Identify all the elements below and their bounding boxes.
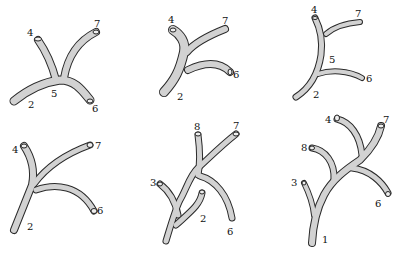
vessel-branching-diagram: 4 7 5 2 6 4 7 6 2 4 7 5 6 2 4 7 6 2 8 7 …	[0, 0, 398, 256]
panel-d	[14, 143, 97, 231]
panel-e	[158, 132, 240, 241]
label-3: 3	[291, 178, 297, 188]
label-2: 2	[177, 92, 183, 102]
label-7: 7	[94, 19, 100, 29]
label-1: 1	[322, 235, 328, 245]
label-5: 5	[329, 55, 335, 65]
label-4: 4	[27, 28, 33, 38]
label-6: 6	[227, 227, 233, 237]
label-6: 6	[366, 74, 372, 84]
label-4: 4	[12, 145, 18, 155]
label-7: 7	[222, 16, 228, 26]
label-2: 2	[313, 90, 319, 100]
label-8: 8	[194, 122, 200, 132]
label-6: 6	[97, 206, 103, 216]
label-5: 5	[51, 89, 57, 99]
label-6: 6	[233, 70, 239, 80]
label-8: 8	[301, 143, 307, 153]
panel-b	[164, 28, 232, 92]
panel-f	[302, 115, 391, 243]
label-2: 2	[200, 214, 206, 224]
label-6: 6	[92, 104, 98, 114]
label-7: 7	[233, 121, 239, 131]
label-3: 3	[150, 178, 156, 188]
label-7: 7	[355, 9, 361, 19]
label-2: 2	[27, 222, 33, 232]
label-4: 4	[325, 115, 331, 125]
label-4: 4	[311, 5, 317, 15]
label-2: 2	[28, 100, 34, 110]
label-6: 6	[375, 199, 381, 209]
label-7: 7	[383, 115, 389, 125]
label-7: 7	[95, 141, 101, 151]
label-4: 4	[168, 15, 174, 25]
